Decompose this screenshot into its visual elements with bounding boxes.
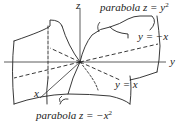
surface-left-edge [14,20,62,41]
parabola-top-curve [62,26,80,62]
parabola-top-label: parabola z = y2 [100,2,169,13]
line-y-eq-x [80,62,120,80]
x-axis-label: x [34,88,39,99]
line-neg-label: y = −x [138,31,168,42]
line-pos-label: y = x [115,79,138,90]
surface-front-edge [14,94,130,104]
parabola-bottom-curve [68,62,80,94]
line-y-eq-neg-x [80,44,158,62]
x-axis [40,62,80,98]
y-axis-label: y [170,56,175,67]
z-axis-label: z [76,0,80,11]
saddle-diagram [0,0,180,127]
parabola-bottom-label: parabola z = −x2 [36,110,112,121]
surface-left-side [13,41,15,104]
